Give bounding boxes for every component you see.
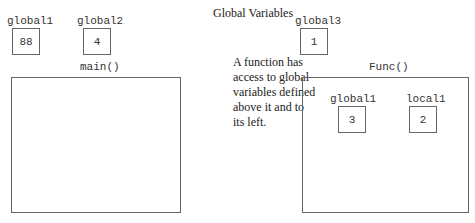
func-local1-label: local1	[406, 93, 446, 105]
func-local1-value: 2	[420, 114, 427, 126]
global1-value: 88	[19, 36, 32, 48]
main-function-label: main()	[80, 61, 120, 73]
func-global1-label: global1	[330, 93, 376, 105]
func-function-label: Func()	[369, 61, 409, 73]
global3-box: 1	[300, 28, 328, 55]
func-global1-value: 3	[349, 114, 356, 126]
main-function-frame	[11, 77, 181, 213]
global2-label: global2	[77, 15, 123, 27]
global2-value: 4	[94, 36, 101, 48]
global2-box: 4	[83, 28, 111, 55]
note-line: A function has	[233, 55, 315, 70]
global1-label: global1	[7, 15, 53, 27]
global3-value: 1	[311, 36, 318, 48]
diagram-title: Global Variables	[213, 6, 293, 21]
global1-box: 88	[12, 28, 40, 55]
func-local1-box: 2	[409, 106, 437, 133]
func-global1-box: 3	[338, 106, 366, 133]
global3-label: global3	[295, 15, 341, 27]
